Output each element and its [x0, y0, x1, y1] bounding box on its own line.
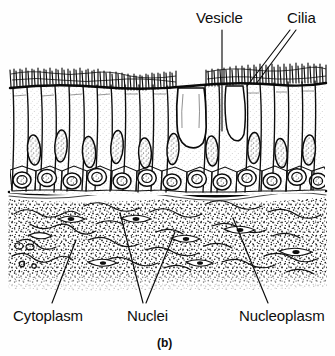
label-vesicle: Vesicle	[196, 10, 243, 25]
label-nucleoplasm: Nucleoplasm	[239, 308, 325, 323]
columnar-epithelium	[0, 80, 335, 195]
vesicle-goblet-cell-secondary	[225, 86, 245, 141]
connective-tissue-region	[0, 190, 335, 297]
histology-drawing	[0, 0, 335, 356]
figure-caption: (b)	[157, 336, 172, 350]
vesicle-goblet-cell	[177, 88, 207, 148]
histology-figure: Vesicle Cilia Cytoplasm Nuclei Nucleopla…	[0, 0, 335, 356]
label-nuclei: Nuclei	[127, 308, 168, 323]
label-cilia: Cilia	[287, 10, 316, 25]
label-cytoplasm: Cytoplasm	[13, 308, 83, 323]
